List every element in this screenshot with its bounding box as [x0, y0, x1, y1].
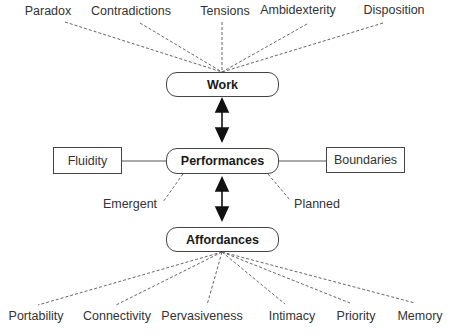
- link-affordances-memory: [222, 252, 415, 303]
- link-contradictions-work: [140, 23, 222, 72]
- link-performances-planned: [268, 174, 290, 200]
- link-affordances-pervasiveness: [207, 252, 222, 305]
- label-contradictions: Contradictions: [91, 4, 171, 18]
- link-ambidexterity-work: [222, 24, 307, 72]
- label-memory: Memory: [397, 309, 442, 323]
- label-connectivity: Connectivity: [83, 309, 151, 323]
- link-disposition-work: [222, 23, 383, 72]
- label-emergent: Emergent: [103, 197, 157, 211]
- label-ambidexterity: Ambidexterity: [260, 3, 336, 17]
- label-intimacy: Intimacy: [269, 309, 316, 323]
- label-disposition: Disposition: [363, 3, 424, 17]
- label-paradox: Paradox: [25, 4, 72, 18]
- arrow-up-head-2: [216, 178, 228, 191]
- node-boundaries: Boundaries: [326, 147, 405, 173]
- node-work: Work: [166, 72, 279, 97]
- node-affordances: Affordances: [166, 227, 279, 252]
- node-performances: Performances: [166, 148, 279, 174]
- link-performances-emergent: [163, 174, 183, 202]
- link-affordances-connectivity: [116, 252, 222, 305]
- arrow-down-head-2: [216, 207, 228, 220]
- link-affordances-intimacy: [222, 252, 285, 304]
- label-pervasiveness: Pervasiveness: [161, 309, 242, 323]
- link-paradox-work: [65, 22, 222, 72]
- link-affordances-portability: [38, 252, 222, 305]
- label-tensions: Tensions: [200, 4, 249, 18]
- node-fluidity: Fluidity: [53, 147, 122, 174]
- arrow-up-head-1: [216, 99, 228, 112]
- label-portability: Portability: [9, 309, 64, 323]
- label-priority: Priority: [337, 309, 376, 323]
- link-affordances-priority: [222, 252, 350, 303]
- arrow-down-head-1: [216, 128, 228, 141]
- label-planned: Planned: [294, 197, 340, 211]
